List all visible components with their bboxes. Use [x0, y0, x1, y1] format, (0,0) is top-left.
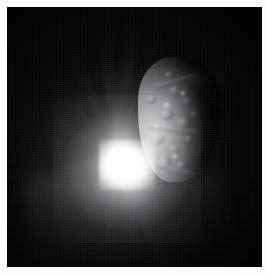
comet-nucleus: [138, 57, 220, 182]
frame-vignette: [7, 7, 262, 267]
ejecta-plume-rays: [7, 7, 262, 267]
screenshot-viewport: comet nucleus with impact flash and ejec…: [0, 0, 266, 275]
nucleus-crater: [160, 109, 173, 120]
ejecta-ray: [102, 159, 124, 260]
ejecta-ray: [43, 107, 121, 165]
astronomical-image-frame: [7, 7, 262, 267]
nucleus-bright-spot: [162, 101, 171, 109]
ejecta-ray: [50, 75, 122, 163]
ejecta-ray: [96, 10, 125, 161]
sensor-noise-overlay: [7, 7, 262, 267]
nucleus-crater: [146, 95, 156, 104]
ejecta-ray: [27, 154, 120, 186]
lower-dust-sheet: [27, 177, 227, 267]
ejecta-ray: [65, 39, 123, 162]
nucleus-crater: [150, 133, 164, 145]
ejecta-ray: [71, 157, 123, 236]
outer-coma-glow: [7, 7, 262, 267]
nucleus-terminator-shadow: [184, 57, 220, 182]
nucleus-crater: [164, 71, 176, 79]
nucleus-bright-spot: [171, 153, 178, 159]
